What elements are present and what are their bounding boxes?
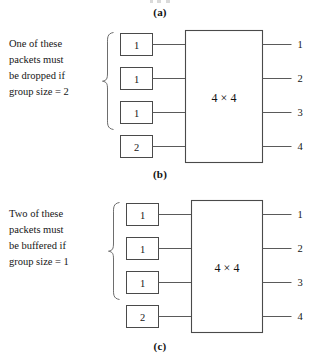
output-port-3-label-panel-c: 3 [297, 277, 302, 288]
output-port-3-label-panel-b: 3 [297, 107, 302, 118]
input-packet-box-3-label-panel-b: 1 [134, 108, 139, 119]
output-port-4-label-panel-b: 4 [297, 141, 303, 152]
input-packet-box-2-label-panel-b: 1 [134, 74, 139, 85]
panel-b-diagram: 1 1 1 2 4 × 4 1 2 3 4 [0, 0, 320, 180]
grouping-brace-panel-c [109, 203, 120, 300]
switch-fabric-label-panel-b: 4 × 4 [212, 91, 237, 105]
caption-panel-c: (c) [0, 340, 320, 353]
output-port-4-label-panel-c: 4 [297, 311, 303, 322]
output-port-1-label-panel-b: 1 [297, 39, 302, 50]
input-packet-box-4-label-panel-b: 2 [134, 142, 139, 153]
input-packet-box-1-label-panel-c: 1 [140, 210, 145, 221]
input-packet-box-2-label-panel-c: 1 [140, 244, 145, 255]
output-port-1-label-panel-c: 1 [297, 209, 302, 220]
grouping-brace-panel-b [103, 33, 114, 130]
panel-c-diagram: 1 1 1 2 4 × 4 1 2 3 4 [0, 175, 320, 355]
output-port-2-label-panel-b: 2 [297, 73, 302, 84]
figure-root: (a) One of these packets must be dropped… [0, 0, 320, 358]
switch-fabric-label-panel-c: 4 × 4 [215, 261, 240, 275]
caption-panel-c-label: (c) [154, 340, 167, 353]
input-packet-box-1-label-panel-b: 1 [134, 40, 139, 51]
input-packet-box-3-label-panel-c: 1 [140, 278, 145, 289]
input-packet-box-4-label-panel-c: 2 [140, 312, 145, 323]
output-port-2-label-panel-c: 2 [297, 243, 302, 254]
